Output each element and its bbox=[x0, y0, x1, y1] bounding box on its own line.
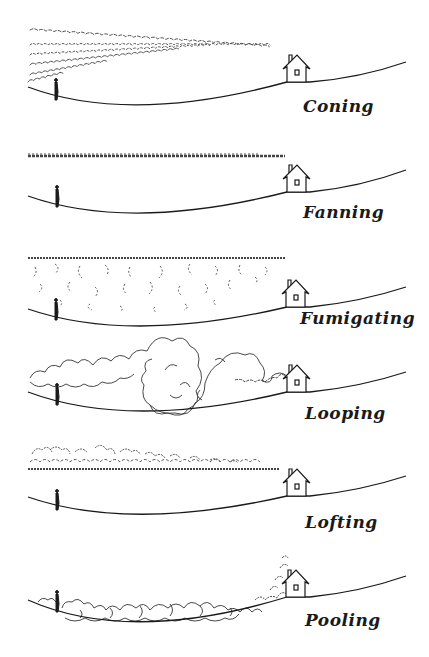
label-fanning: Fanning bbox=[303, 202, 384, 222]
house-icon bbox=[282, 570, 309, 597]
pooling-diagram bbox=[0, 540, 429, 657]
label-looping: Looping bbox=[305, 403, 386, 423]
smoke-plume bbox=[38, 556, 288, 621]
house-icon bbox=[283, 55, 310, 82]
person-icon bbox=[55, 79, 58, 100]
panel-fumigating: Fumigating bbox=[0, 222, 429, 330]
label-pooling: Pooling bbox=[305, 610, 381, 630]
house-icon bbox=[283, 165, 310, 192]
person-icon bbox=[56, 591, 59, 612]
smoke-plume bbox=[28, 154, 285, 156]
panel-lofting: Lofting bbox=[0, 432, 429, 540]
house-icon bbox=[283, 365, 310, 392]
ground-line bbox=[28, 476, 406, 514]
label-lofting: Lofting bbox=[305, 512, 378, 532]
smoke-plume bbox=[28, 29, 270, 82]
smoke-plume bbox=[28, 445, 280, 469]
person-icon bbox=[56, 490, 59, 510]
label-fumigating: Fumigating bbox=[300, 308, 415, 328]
panel-pooling: Pooling bbox=[0, 540, 429, 657]
house-icon bbox=[282, 280, 309, 307]
panel-fanning: Fanning bbox=[0, 112, 429, 222]
panel-coning: Coning bbox=[0, 0, 429, 112]
person-icon bbox=[55, 299, 58, 320]
person-icon bbox=[56, 186, 59, 207]
panel-looping: Looping bbox=[0, 330, 429, 432]
smoke-plume bbox=[28, 258, 285, 312]
house-icon bbox=[283, 469, 310, 496]
